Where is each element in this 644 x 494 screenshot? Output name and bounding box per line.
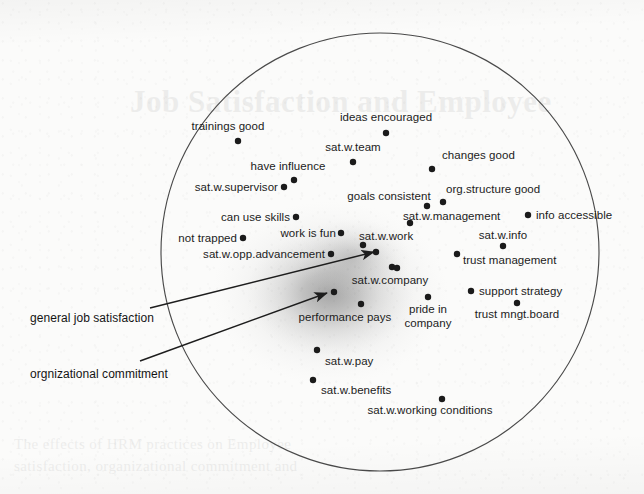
data-point-label: org.structure good [446,183,540,195]
data-point [454,251,460,257]
figure-page: Job Satisfaction and Employee The effect… [0,0,644,494]
data-point-label: have influence [251,160,326,172]
data-point-label: sat.w.info [479,229,527,241]
data-point [429,166,435,172]
annotation-leader-line [150,252,374,308]
data-point [331,289,337,295]
data-point-label: pride in [409,303,447,315]
data-point-label: changes good [442,149,515,161]
data-point-label: sat.w.management [403,210,501,222]
data-point [514,300,520,306]
data-point [358,301,364,307]
data-point-label: trainings good [192,120,265,132]
data-point-label: sat.w.opp.advancement [203,248,326,260]
data-point-label: trust management [463,254,557,266]
data-point [424,203,430,209]
data-point [328,251,334,257]
data-point [439,396,445,402]
data-point [281,184,287,190]
data-point [235,138,241,144]
data-point-label: sat.w.supervisor [195,181,278,193]
data-point-label: not trapped [178,232,237,244]
data-point [468,288,474,294]
data-point [383,130,389,136]
data-point [350,159,356,165]
data-point [500,243,506,249]
data-point-label: info accessible [536,209,612,221]
data-point [425,294,431,300]
data-point-label: trust mngt.board [475,308,560,320]
data-point [314,347,320,353]
data-point-label: sat.w.work [359,230,413,242]
data-point [360,242,366,248]
data-points-layer: trainings goodideas encouragedsat.w.team… [178,111,612,416]
data-point-label: work is fun [279,227,336,239]
data-point-label: performance pays [299,311,392,323]
data-point-label: sat.w.team [325,141,380,153]
data-point-label: support strategy [479,285,562,297]
scatter-plot-canvas: trainings goodideas encouragedsat.w.team… [0,0,644,494]
data-point [240,235,246,241]
data-point-label: company [404,317,451,329]
data-point [293,214,299,220]
data-point [394,265,400,271]
data-point [291,177,297,183]
data-point [525,212,531,218]
data-point-label: sat.w.pay [325,355,374,367]
data-point-label: sat.w.company [352,274,429,286]
annotation-label-orgnizational-commitment: orgnizational commitment [30,367,169,381]
data-point [338,230,344,236]
data-point-label: can use skills [221,211,290,223]
data-point-label: ideas encouraged [340,111,432,123]
data-point-label: goals consistent [347,190,431,202]
data-point [310,377,316,383]
data-point [440,199,446,205]
data-point-label: sat.w.working conditions [367,404,492,416]
data-point-label: sat.w.benefits [321,384,392,396]
annotation-label-general-job-satisfaction: general job satisfaction [30,311,154,325]
